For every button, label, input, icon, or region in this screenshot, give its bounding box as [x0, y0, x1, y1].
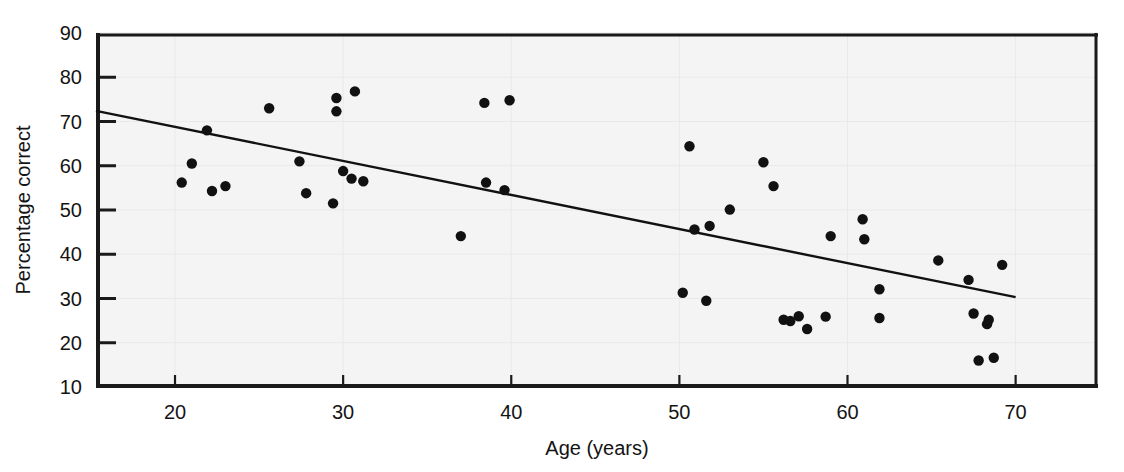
data-point: [704, 221, 714, 231]
x-axis-tick-labels: 203040506070: [164, 401, 1027, 423]
data-point: [504, 95, 514, 105]
y-axis-title: Percentage correct: [12, 125, 34, 294]
data-point: [456, 231, 466, 241]
y-tick-label: 60: [60, 155, 82, 177]
data-point: [820, 311, 830, 321]
data-point: [701, 296, 711, 306]
x-tick-label: 20: [164, 401, 186, 423]
data-point: [294, 156, 304, 166]
data-point: [358, 176, 368, 186]
data-point: [794, 311, 804, 321]
data-point: [989, 353, 999, 363]
data-point: [187, 158, 197, 168]
data-point: [973, 355, 983, 365]
data-point: [346, 173, 356, 183]
data-point: [350, 86, 360, 96]
data-point: [725, 204, 735, 214]
data-point: [301, 188, 311, 198]
data-point: [802, 324, 812, 334]
y-tick-label: 50: [60, 199, 82, 221]
y-tick-label: 80: [60, 66, 82, 88]
data-point: [997, 260, 1007, 270]
data-point: [499, 185, 509, 195]
data-point: [678, 288, 688, 298]
x-tick-label: 40: [500, 401, 522, 423]
data-point: [857, 214, 867, 224]
x-axis-title: Age (years): [545, 437, 648, 459]
data-point: [328, 198, 338, 208]
data-point: [177, 177, 187, 187]
x-tick-label: 60: [836, 401, 858, 423]
x-tick-label: 70: [1004, 401, 1026, 423]
x-tick-label: 30: [332, 401, 354, 423]
y-tick-label: 40: [60, 243, 82, 265]
data-point: [933, 255, 943, 265]
data-point: [874, 313, 884, 323]
data-point: [331, 93, 341, 103]
data-point: [684, 141, 694, 151]
scatter-plot-figure: 102030405060708090 203040506070 Age (yea…: [0, 0, 1124, 472]
data-point: [202, 125, 212, 135]
data-point: [264, 103, 274, 113]
y-tick-label: 30: [60, 288, 82, 310]
data-point: [338, 166, 348, 176]
data-point: [758, 157, 768, 167]
x-tick-label: 50: [668, 401, 690, 423]
data-point: [859, 234, 869, 244]
y-axis-tick-labels: 102030405060708090: [60, 22, 82, 398]
data-point: [481, 177, 491, 187]
data-point: [874, 284, 884, 294]
y-tick-label: 10: [60, 376, 82, 398]
data-point: [220, 181, 230, 191]
data-point: [689, 224, 699, 234]
data-point: [479, 98, 489, 108]
data-point: [768, 181, 778, 191]
data-point: [968, 308, 978, 318]
y-tick-label: 70: [60, 111, 82, 133]
data-point: [963, 275, 973, 285]
y-tick-label: 20: [60, 332, 82, 354]
data-point: [331, 106, 341, 116]
y-tick-label: 90: [60, 22, 82, 44]
data-point: [207, 186, 217, 196]
data-point: [982, 319, 992, 329]
chart-canvas: 102030405060708090 203040506070 Age (yea…: [0, 0, 1124, 472]
data-point: [825, 231, 835, 241]
